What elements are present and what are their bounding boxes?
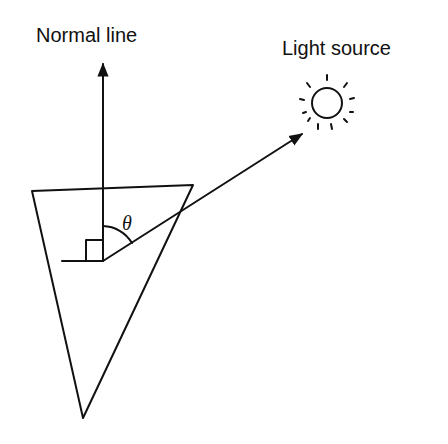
light-source-label: Light source [282,37,391,59]
normal-line-label: Normal line [36,24,137,46]
diagram-canvas: Normal line Light source θ [0,0,448,444]
theta-label: θ [122,212,132,234]
light-ray-arrow [103,134,302,261]
sun-icon [300,75,354,129]
right-angle-marker [86,240,103,261]
